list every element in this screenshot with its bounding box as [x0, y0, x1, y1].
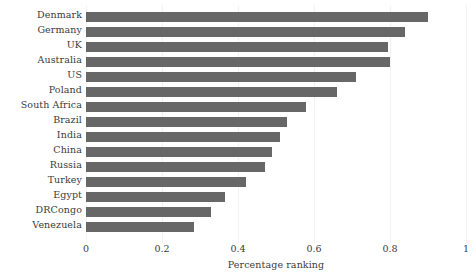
category-label-us: US — [2, 67, 82, 82]
gridline-1 — [466, 5, 467, 243]
bar-row — [86, 160, 466, 175]
x-tick-label-1: 1 — [463, 243, 469, 254]
category-label-australia: Australia — [2, 52, 82, 67]
bar-germany — [86, 27, 405, 37]
category-label-drcongo: DRCongo — [2, 202, 82, 217]
bar-row — [86, 115, 466, 130]
bar-brazil — [86, 117, 287, 127]
bar-row — [86, 100, 466, 115]
bar-uk — [86, 42, 388, 52]
x-tick-label-0: 0 — [83, 243, 89, 254]
category-label-india: India — [2, 127, 82, 142]
x-axis-tick-labels: 00.20.40.60.81 — [86, 243, 466, 257]
x-tick-label-0.6: 0.6 — [306, 243, 321, 254]
bar-russia — [86, 162, 265, 172]
bar-row — [86, 55, 466, 70]
bar-row — [86, 220, 466, 235]
bar-egypt — [86, 192, 225, 202]
bar-row — [86, 40, 466, 55]
bar-india — [86, 132, 280, 142]
category-label-germany: Germany — [2, 22, 82, 37]
bar-us — [86, 72, 356, 82]
bar-row — [86, 130, 466, 145]
bar-poland — [86, 87, 337, 97]
bar-australia — [86, 57, 390, 67]
bar-drcongo — [86, 207, 211, 217]
bar-row — [86, 175, 466, 190]
category-label-russia: Russia — [2, 157, 82, 172]
x-tick-label-0.4: 0.4 — [230, 243, 245, 254]
category-label-china: China — [2, 142, 82, 157]
bar-row — [86, 205, 466, 220]
category-label-egypt: Egypt — [2, 187, 82, 202]
x-tick-label-0.2: 0.2 — [154, 243, 169, 254]
bar-venezuela — [86, 222, 194, 232]
y-axis-category-labels: DenmarkGermanyUKAustraliaUSPolandSouth A… — [0, 5, 82, 240]
category-label-turkey: Turkey — [2, 172, 82, 187]
bar-row — [86, 25, 466, 40]
category-label-uk: UK — [2, 37, 82, 52]
plot-area — [86, 5, 466, 240]
category-label-denmark: Denmark — [2, 7, 82, 22]
bar-row — [86, 190, 466, 205]
category-label-south-africa: South Africa — [2, 97, 82, 112]
bar-row — [86, 10, 466, 25]
category-label-brazil: Brazil — [2, 112, 82, 127]
category-label-poland: Poland — [2, 82, 82, 97]
bar-chart: DenmarkGermanyUKAustraliaUSPolandSouth A… — [0, 0, 476, 278]
bar-south-africa — [86, 102, 306, 112]
bar-turkey — [86, 177, 246, 187]
bar-china — [86, 147, 272, 157]
x-axis-title: Percentage ranking — [86, 259, 466, 270]
category-label-venezuela: Venezuela — [2, 217, 82, 232]
bar-row — [86, 85, 466, 100]
bar-row — [86, 70, 466, 85]
x-tick-label-0.8: 0.8 — [382, 243, 397, 254]
bar-denmark — [86, 12, 428, 22]
bar-row — [86, 145, 466, 160]
